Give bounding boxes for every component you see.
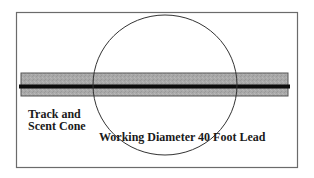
working-diameter-label: Working Diameter 40 Foot Lead [99,131,265,143]
track-label-line2: Scent Cone [28,120,86,132]
scent-tracking-diagram [0,0,314,178]
